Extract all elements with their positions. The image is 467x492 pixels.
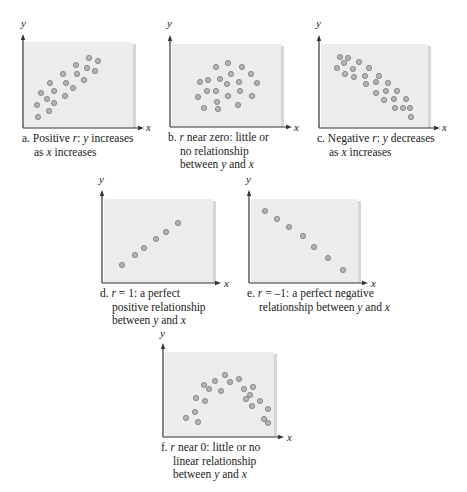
- chart-canvas: yxyxyxyxyxyx: [0, 0, 467, 492]
- data-point: [407, 105, 412, 110]
- data-point: [385, 80, 390, 85]
- panel-caption-a: a. Positive r: y increasesas x increases: [22, 132, 134, 159]
- data-point: [236, 376, 241, 381]
- data-point: [222, 372, 227, 377]
- data-point: [225, 93, 230, 98]
- data-point: [213, 64, 218, 69]
- data-point: [408, 114, 413, 119]
- data-point: [363, 81, 368, 86]
- data-point: [391, 96, 396, 101]
- data-point: [163, 229, 168, 234]
- data-point: [257, 398, 262, 403]
- data-point: [218, 388, 223, 393]
- plot-area: [104, 199, 213, 283]
- data-point: [60, 71, 65, 76]
- data-point: [286, 224, 291, 229]
- data-point: [249, 93, 254, 98]
- scatter-panel-a: yx: [20, 17, 151, 133]
- data-point: [236, 79, 241, 84]
- data-point: [274, 216, 279, 221]
- panel-caption-f: f. r near 0: little or nolinear relation…: [161, 441, 260, 482]
- data-point: [400, 105, 405, 110]
- data-point: [262, 208, 267, 213]
- data-point: [202, 398, 207, 403]
- data-point: [206, 386, 211, 391]
- data-point: [383, 88, 388, 93]
- data-point: [86, 55, 91, 60]
- y-axis-label: y: [166, 17, 172, 29]
- data-point: [183, 415, 188, 420]
- plot-area: [165, 352, 274, 437]
- data-point: [35, 114, 40, 119]
- y-axis-arrow-icon: [317, 35, 321, 41]
- data-point: [197, 79, 202, 84]
- data-point: [228, 71, 233, 76]
- data-point: [254, 80, 259, 85]
- x-axis-arrow-icon: [215, 281, 221, 285]
- data-point: [204, 88, 209, 93]
- y-axis-label: y: [245, 173, 251, 185]
- y-axis-arrow-icon: [161, 343, 165, 349]
- y-axis-arrow-icon: [21, 34, 25, 40]
- scatter-panel-f: yx: [159, 327, 292, 443]
- data-point: [81, 77, 86, 82]
- data-point: [92, 68, 97, 73]
- caption-line: as x increases: [317, 146, 435, 160]
- data-point: [235, 102, 240, 107]
- data-point: [237, 88, 242, 93]
- y-axis-arrow-icon: [100, 190, 104, 196]
- caption-line: as x increases: [22, 146, 134, 160]
- data-point: [153, 236, 158, 241]
- scatter-panel-d: yx: [98, 173, 229, 289]
- y-axis-label: y: [98, 173, 104, 185]
- x-axis-label: x: [145, 121, 151, 133]
- data-point: [195, 419, 200, 424]
- data-point: [215, 106, 220, 111]
- data-point: [325, 255, 330, 260]
- data-point: [46, 108, 51, 113]
- data-point: [217, 76, 222, 81]
- data-point: [205, 77, 210, 82]
- x-axis-arrow-icon: [278, 435, 284, 439]
- data-point: [311, 244, 316, 249]
- data-point: [300, 233, 305, 238]
- data-point: [132, 252, 137, 257]
- data-point: [62, 93, 67, 98]
- data-point: [337, 54, 342, 59]
- caption-line: d. r = 1: a perfect: [100, 287, 206, 301]
- data-point: [265, 420, 270, 425]
- data-point: [340, 267, 345, 272]
- data-point: [373, 79, 378, 84]
- data-point: [250, 384, 255, 389]
- data-point: [70, 85, 75, 90]
- data-point: [119, 262, 124, 267]
- caption-line: c. Negative r: y decreases: [317, 132, 435, 146]
- data-point: [44, 96, 49, 101]
- data-point: [175, 220, 180, 225]
- data-point: [63, 80, 68, 85]
- x-axis-arrow-icon: [286, 125, 292, 129]
- data-point: [248, 71, 253, 76]
- data-point: [241, 386, 246, 391]
- panel-caption-c: c. Negative r: y decreasesas x increases: [317, 132, 435, 159]
- data-point: [345, 55, 350, 60]
- x-axis-arrow-icon: [362, 281, 368, 285]
- x-axis-arrow-icon: [138, 126, 144, 130]
- caption-line: e. r = –1: a perfect negative: [247, 287, 390, 301]
- data-point: [350, 66, 355, 71]
- data-point: [249, 403, 254, 408]
- data-point: [74, 71, 79, 76]
- data-point: [47, 80, 52, 85]
- caption-line: b. r near zero: little or: [168, 131, 269, 145]
- scatter-panel-c: yx: [315, 17, 447, 133]
- data-point: [342, 71, 347, 76]
- data-point: [381, 97, 386, 102]
- data-point: [341, 60, 346, 65]
- caption-line: relationship between y and x: [247, 301, 390, 315]
- data-point: [193, 395, 198, 400]
- data-point: [356, 59, 361, 64]
- x-axis-label: x: [293, 121, 299, 133]
- data-point: [224, 81, 229, 86]
- data-point: [265, 406, 270, 411]
- x-axis-label: x: [441, 121, 447, 133]
